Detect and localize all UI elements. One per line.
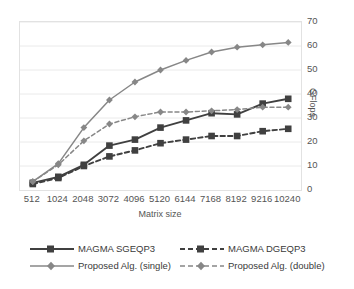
data-point-marker [106, 153, 113, 160]
data-point-marker [157, 109, 164, 116]
data-point-marker [285, 96, 292, 103]
y-axis-tick-label: 60 [307, 40, 318, 50]
data-point-marker [106, 142, 113, 149]
legend-key-magma-dgeqp3 [180, 243, 224, 255]
data-point-marker [208, 49, 215, 56]
legend-key-proposed-double [180, 260, 224, 272]
legend-row: MAGMA SGEQP3 MAGMA DGEQP3 [30, 240, 330, 257]
legend-label: MAGMA SGEQP3 [78, 243, 155, 254]
y-axis-tick-label: 0 [307, 184, 312, 194]
legend-item-magma-sgeqp3[interactable]: MAGMA SGEQP3 [30, 243, 180, 255]
legend-label: Proposed Alg. (single) [78, 260, 171, 271]
data-point-marker [183, 57, 190, 64]
x-axis-title: Matrix size [0, 209, 320, 219]
data-point-marker [208, 133, 215, 140]
y-axis-title: GFlops [308, 88, 318, 117]
data-point-marker [183, 117, 190, 124]
data-point-marker [106, 121, 113, 128]
legend-item-proposed-single[interactable]: Proposed Alg. (single) [30, 260, 180, 272]
y-axis-tick-label: 10 [307, 160, 318, 170]
legend-item-magma-dgeqp3[interactable]: MAGMA DGEQP3 [180, 243, 306, 255]
data-point-marker [183, 136, 190, 143]
y-axis-tick-label: 50 [307, 64, 318, 74]
plot-svg [20, 22, 301, 190]
data-point-marker [81, 163, 88, 170]
legend-key-magma-sgeqp3 [30, 243, 74, 255]
data-point-marker [157, 140, 164, 147]
legend-item-proposed-double[interactable]: Proposed Alg. (double) [180, 260, 325, 272]
legend-key-proposed-single [30, 260, 74, 272]
data-point-marker [234, 44, 241, 51]
data-point-marker [157, 124, 164, 131]
data-point-marker [132, 136, 139, 143]
data-point-marker [285, 39, 292, 46]
data-point-marker [183, 109, 190, 116]
legend-row: Proposed Alg. (single) Proposed Alg. (do… [30, 257, 330, 274]
x-axis-tick-label: 10240 [268, 193, 306, 204]
series-line-1 [33, 129, 288, 184]
data-point-marker [157, 67, 164, 74]
chart-container: 010203040506070 GFlops 51210242048307240… [0, 0, 354, 289]
legend-label: Proposed Alg. (double) [228, 260, 325, 271]
data-point-marker [55, 175, 62, 182]
data-point-marker [259, 128, 266, 135]
data-point-marker [132, 147, 139, 154]
plot-area [19, 21, 302, 191]
chart-legend: MAGMA SGEQP3 MAGMA DGEQP3 Proposed Alg. … [30, 240, 330, 274]
data-point-marker [285, 104, 292, 111]
legend-label: MAGMA DGEQP3 [228, 243, 306, 254]
data-point-marker [259, 41, 266, 48]
data-point-marker [132, 113, 139, 120]
y-axis-tick-label: 20 [307, 136, 318, 146]
data-point-marker [234, 133, 241, 140]
data-point-marker [285, 126, 292, 133]
y-axis-tick-label: 70 [307, 16, 318, 26]
